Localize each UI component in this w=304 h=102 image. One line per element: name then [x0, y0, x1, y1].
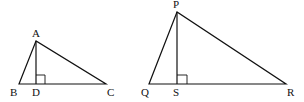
vertex-label-a: A: [32, 27, 40, 39]
vertex-label-c: C: [107, 86, 114, 98]
triangle-abc: A B D C: [10, 27, 114, 98]
triangle-abc-outline: [19, 41, 106, 84]
right-angle-marker-d: [36, 75, 45, 84]
vertex-label-d: D: [32, 86, 40, 98]
diagram-stage: A B D C P Q S R: [0, 0, 304, 102]
vertex-label-q: Q: [141, 86, 149, 98]
vertex-label-b: B: [10, 86, 17, 98]
vertex-label-s: S: [173, 86, 179, 98]
right-angle-marker-s: [177, 75, 187, 84]
vertex-label-r: R: [287, 86, 295, 98]
triangles-figure: A B D C P Q S R: [0, 0, 304, 102]
triangle-pqr-outline: [149, 12, 286, 84]
vertex-label-p: P: [173, 0, 179, 10]
triangle-pqr: P Q S R: [141, 0, 295, 98]
